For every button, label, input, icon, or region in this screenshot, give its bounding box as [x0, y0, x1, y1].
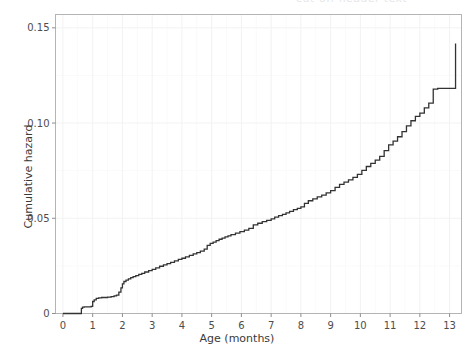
- svg-text:2: 2: [119, 320, 125, 331]
- major-gridlines: [56, 15, 462, 314]
- cumulative-hazard-plot: 012345678910111213 00.050.100.15: [0, 0, 474, 353]
- panel-border: [56, 15, 462, 314]
- x-axis-tick-labels: 012345678910111213: [60, 320, 456, 331]
- svg-text:7: 7: [268, 320, 274, 331]
- svg-text:1: 1: [89, 320, 95, 331]
- svg-text:0: 0: [60, 320, 66, 331]
- y-axis-title: Cumulative hazard: [22, 97, 35, 257]
- svg-text:6: 6: [238, 320, 244, 331]
- minor-gridlines: [56, 15, 462, 314]
- chart-figure: cut-off header text 012345678910111213 0…: [0, 0, 474, 353]
- svg-text:12: 12: [413, 320, 426, 331]
- svg-text:10: 10: [354, 320, 367, 331]
- svg-text:8: 8: [298, 320, 304, 331]
- svg-text:5: 5: [208, 320, 214, 331]
- svg-text:0: 0: [43, 308, 49, 319]
- svg-text:11: 11: [384, 320, 397, 331]
- svg-text:9: 9: [327, 320, 333, 331]
- x-axis-title: Age (months): [0, 332, 474, 345]
- svg-text:4: 4: [179, 320, 185, 331]
- cumulative-hazard-curve: [63, 43, 456, 313]
- svg-text:0.15: 0.15: [27, 22, 49, 33]
- svg-text:3: 3: [149, 320, 155, 331]
- svg-text:13: 13: [443, 320, 456, 331]
